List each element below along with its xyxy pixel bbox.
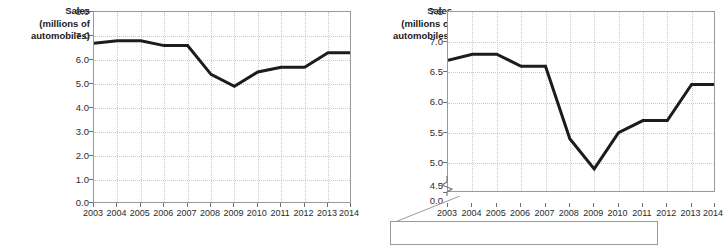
x-tick-mark: [116, 203, 117, 207]
x-tick-mark: [93, 203, 94, 207]
y-tick-label: 5.0: [63, 79, 89, 89]
x-tick-mark: [714, 203, 715, 207]
y-axis-break-icon: [439, 176, 455, 196]
x-tick-mark: [593, 203, 594, 207]
x-tick-mark: [187, 203, 188, 207]
y-tick-label: 8.0: [63, 7, 89, 17]
y-axis-title-left-line2: (millions of: [0, 18, 90, 31]
y-tick-label: 0.0: [63, 198, 89, 208]
plot-area-left: [93, 11, 351, 203]
y-tick-label: 1.0: [63, 175, 89, 185]
y-axis-title-right-line2: (millions of: [356, 18, 452, 31]
y-tick-mark: [89, 179, 93, 180]
y-tick-mark: [443, 71, 447, 72]
chart-panel-left: Sales (millions of automobiles): [0, 0, 380, 232]
y-tick-mark: [443, 162, 447, 163]
y-tick-label: 2.0: [63, 151, 89, 161]
y-tick-mark: [443, 132, 447, 133]
x-tick-mark: [280, 203, 281, 207]
x-tick-mark: [569, 203, 570, 207]
data-line-left: [94, 12, 351, 203]
y-tick-mark: [89, 83, 93, 84]
y-tick-mark: [89, 11, 93, 12]
y-tick-label: 7.0: [63, 31, 89, 41]
x-tick-label: 2014: [334, 208, 364, 218]
y-tick-label: 4.0: [63, 103, 89, 113]
x-tick-mark: [642, 203, 643, 207]
x-tick-mark: [350, 203, 351, 207]
x-tick-mark: [163, 203, 164, 207]
y-tick-mark: [89, 59, 93, 60]
y-tick-label: 5.0: [417, 158, 443, 168]
y-tick-mark: [443, 11, 447, 12]
x-tick-mark: [257, 203, 258, 207]
x-tick-mark: [618, 203, 619, 207]
y-tick-label: 6.5: [417, 67, 443, 77]
x-tick-mark: [545, 203, 546, 207]
y-tick-label: 6.0: [63, 55, 89, 65]
x-tick-mark: [666, 203, 667, 207]
y-tick-mark: [443, 41, 447, 42]
data-line-right: [448, 12, 715, 192]
x-tick-mark: [210, 203, 211, 207]
y-tick-mark: [89, 155, 93, 156]
x-tick-mark: [233, 203, 234, 207]
x-tick-mark: [140, 203, 141, 207]
plot-area-right: [447, 11, 715, 192]
x-tick-label: 2014: [698, 208, 727, 218]
y-tick-mark: [89, 35, 93, 36]
chart-panel-right: Sales (millions of automobiles) 7.5: [368, 0, 727, 232]
x-tick-mark: [496, 203, 497, 207]
x-tick-mark: [471, 203, 472, 207]
y-tick-label: 7.0: [417, 37, 443, 47]
y-tick-mark: [89, 131, 93, 132]
y-tick-label: 3.0: [63, 127, 89, 137]
x-tick-mark: [691, 203, 692, 207]
y-tick-label: 6.0: [417, 97, 443, 107]
y-tick-mark: [443, 102, 447, 103]
y-tick-label: 5.5: [417, 128, 443, 138]
y-tick-label: 7.5: [417, 7, 443, 17]
x-tick-mark: [327, 203, 328, 207]
callout-box: [390, 221, 658, 245]
y-tick-mark: [89, 107, 93, 108]
x-tick-mark: [520, 203, 521, 207]
x-tick-mark: [304, 203, 305, 207]
